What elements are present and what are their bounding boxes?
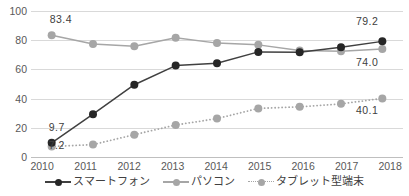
y-tick-label-20: 20 bbox=[15, 123, 27, 134]
data-point[interactable] bbox=[213, 115, 221, 123]
x-tick-label-2018: 2018 bbox=[378, 161, 401, 172]
axis-x-line bbox=[31, 157, 403, 158]
data-point[interactable] bbox=[89, 141, 97, 149]
legend-item-pc[interactable]: パソコン bbox=[163, 176, 235, 187]
data-point[interactable] bbox=[172, 121, 180, 129]
data-point[interactable] bbox=[378, 94, 386, 102]
x-tick-label-2015: 2015 bbox=[248, 161, 271, 172]
x-tick-label-2013: 2013 bbox=[161, 161, 184, 172]
data-point[interactable] bbox=[296, 48, 304, 56]
data-point[interactable] bbox=[213, 59, 221, 67]
legend-label-pc: パソコン bbox=[191, 176, 235, 187]
data-point[interactable] bbox=[378, 37, 386, 45]
data-point[interactable] bbox=[254, 48, 262, 56]
data-point[interactable] bbox=[48, 31, 56, 39]
legend-label-smartphone: スマートフォン bbox=[73, 176, 150, 187]
data-point[interactable] bbox=[337, 43, 345, 51]
legend-item-smartphone[interactable]: スマートフォン bbox=[45, 176, 150, 187]
point-label: 9.7 bbox=[49, 122, 65, 133]
data-point[interactable] bbox=[89, 110, 97, 118]
data-point[interactable] bbox=[337, 100, 345, 108]
y-tick-label-40: 40 bbox=[15, 93, 27, 104]
data-point[interactable] bbox=[296, 103, 304, 111]
x-tick-label-2011: 2011 bbox=[74, 161, 97, 172]
data-point[interactable] bbox=[254, 41, 262, 49]
y-tick-label-100: 100 bbox=[9, 6, 27, 17]
chart-legend: スマートフォン パソコン タブレット型端末 bbox=[0, 176, 409, 187]
legend-marker-tablet-icon bbox=[248, 176, 274, 187]
x-tick-label-2017: 2017 bbox=[335, 161, 358, 172]
data-point[interactable] bbox=[130, 131, 138, 139]
legend-marker-smartphone-icon bbox=[45, 176, 71, 187]
series-layer bbox=[31, 11, 403, 157]
y-tick-label-60: 60 bbox=[15, 64, 27, 75]
series-line-0 bbox=[52, 41, 383, 142]
data-point[interactable] bbox=[130, 81, 138, 89]
data-point[interactable] bbox=[254, 104, 262, 112]
legend-marker-pc-icon bbox=[163, 176, 189, 187]
legend-label-tablet: タブレット型端末 bbox=[276, 176, 364, 187]
x-tick-label-2014: 2014 bbox=[204, 161, 227, 172]
point-label: 79.2 bbox=[356, 16, 378, 27]
point-label: 83.4 bbox=[50, 14, 72, 25]
data-point[interactable] bbox=[172, 62, 180, 70]
data-point[interactable] bbox=[130, 42, 138, 50]
point-label: 40.1 bbox=[356, 105, 378, 116]
data-point[interactable] bbox=[213, 39, 221, 47]
y-tick-label-0: 0 bbox=[21, 152, 27, 163]
line-chart: 100 80 60 40 20 0 83.49.77.279.274.040.1… bbox=[0, 0, 409, 196]
x-tick-label-2012: 2012 bbox=[117, 161, 140, 172]
plot-area: 100 80 60 40 20 0 83.49.77.279.274.040.1… bbox=[31, 11, 403, 157]
point-label: 7.2 bbox=[49, 140, 65, 151]
x-tick-label-2010: 2010 bbox=[30, 161, 53, 172]
x-tick-label-2016: 2016 bbox=[291, 161, 314, 172]
y-tick-label-80: 80 bbox=[15, 35, 27, 46]
legend-item-tablet[interactable]: タブレット型端末 bbox=[248, 176, 364, 187]
data-point[interactable] bbox=[89, 40, 97, 48]
point-label: 74.0 bbox=[356, 57, 378, 68]
data-point[interactable] bbox=[172, 34, 180, 42]
data-point[interactable] bbox=[378, 45, 386, 53]
